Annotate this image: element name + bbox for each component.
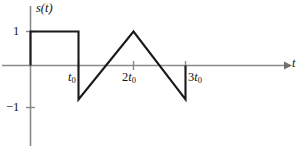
y-tick-label-negative-one: −1	[6, 101, 19, 114]
x-tick-label-2t0: 2t0	[122, 71, 136, 84]
y-axis-label-text: s(t)	[36, 1, 53, 15]
x-tick-label-t0-subscript: 0	[71, 75, 75, 85]
y-tick-label-positive-one-text: 1	[13, 24, 19, 38]
plot-canvas	[0, 0, 301, 154]
y-axis-label: s(t)	[36, 2, 53, 15]
x-axis-label-text: t	[292, 56, 295, 70]
x-tick-label-3t0: 3t0	[188, 71, 202, 84]
x-tick-label-3t0-subscript: 0	[198, 75, 202, 85]
y-tick-label-negative-one-text: −1	[6, 100, 19, 114]
x-axis-label: t	[292, 57, 295, 70]
x-axis-arrowhead	[284, 62, 292, 70]
y-tick-label-positive-one: 1	[13, 25, 19, 38]
signal-waveform-figure: s(t) t 1 −1 t0 2t0 3t0	[0, 0, 301, 154]
x-tick-label-t0: t0	[68, 71, 76, 84]
x-tick-label-2t0-subscript: 0	[132, 75, 136, 85]
